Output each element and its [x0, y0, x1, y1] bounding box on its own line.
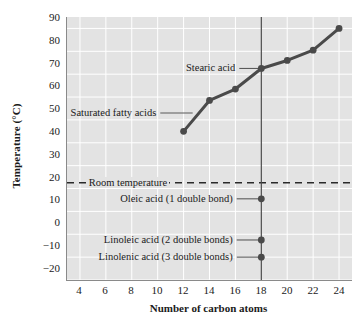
- y-axis-title: Temperature (°C): [10, 56, 22, 236]
- x-tick-20: 20: [276, 285, 298, 296]
- y-tick-60: 60: [32, 80, 60, 91]
- x-axis-title: Number of carbon atoms: [66, 302, 351, 314]
- x-tick-6: 6: [94, 285, 116, 296]
- y-tick-80: 80: [32, 35, 60, 46]
- x-tick-14: 14: [198, 285, 220, 296]
- x-axis-tick-labels: 4 6 8 10 12 14 16 18 20 22 24: [0, 285, 360, 299]
- annotation-linoleic-acid: Linoleic acid (2 double bonds): [0, 234, 233, 245]
- x-tick-8: 8: [120, 285, 142, 296]
- annotation-saturated-fatty-acids: Saturated fatty acids: [0, 107, 156, 118]
- y-axis-tick-labels: 90 80 70 60 50 40 30 20 10 0 −10 −20: [28, 0, 60, 323]
- annotation-room-temperature: Room temperature: [87, 177, 169, 188]
- y-tick-30: 30: [32, 149, 60, 160]
- y-tick-neg20: −20: [32, 263, 60, 274]
- x-tick-18: 18: [250, 285, 272, 296]
- y-tick-0: 0: [32, 217, 60, 228]
- x-tick-12: 12: [172, 285, 194, 296]
- annotation-oleic-acid: Oleic acid (1 double bond): [0, 193, 233, 204]
- annotation-stearic-acid: Stearic acid: [0, 62, 235, 73]
- x-tick-24: 24: [328, 285, 350, 296]
- y-tick-20: 20: [32, 172, 60, 183]
- y-tick-90: 90: [32, 12, 60, 23]
- y-tick-40: 40: [32, 126, 60, 137]
- annotation-linolenic-acid: Linolenic acid (3 double bonds): [0, 251, 233, 262]
- fatty-acid-melting-point-chart: Temperature (°C) Number of carbon atoms …: [0, 0, 360, 323]
- x-tick-16: 16: [224, 285, 246, 296]
- x-tick-22: 22: [302, 285, 324, 296]
- x-tick-10: 10: [146, 285, 168, 296]
- x-tick-4: 4: [68, 285, 90, 296]
